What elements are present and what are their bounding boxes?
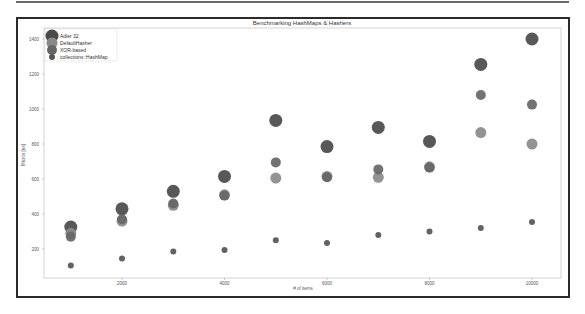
legend-label-adler32: Adler 32 (60, 33, 79, 39)
x-tick-label: 8000 (424, 281, 435, 286)
legend-label-hashmap: collections::HashMap (60, 54, 108, 60)
data-point (373, 164, 383, 174)
data-point (423, 135, 436, 148)
data-point (167, 185, 180, 198)
data-point (529, 219, 535, 225)
scatter-chart: Benchmarking HashMaps & Hashers 20040060… (0, 0, 585, 314)
data-point (475, 127, 486, 138)
legend-marker-xor-based (47, 45, 57, 55)
data-point (117, 214, 127, 224)
legend: Adler 32 DefaultHasher XOR-based collect… (45, 29, 117, 61)
data-point (427, 229, 433, 235)
y-axis-label: Micros [ns] (21, 144, 26, 166)
data-point (375, 232, 381, 238)
data-point (474, 58, 487, 71)
chart-title: Benchmarking HashMaps & Hashers (253, 20, 351, 26)
y-tick-label: 800 (31, 142, 39, 147)
y-tick-label: 600 (31, 177, 39, 182)
data-point (476, 90, 486, 100)
data-point (119, 256, 125, 262)
data-point (220, 191, 230, 201)
data-point (116, 202, 129, 215)
data-point (324, 240, 330, 246)
data-point (168, 199, 178, 209)
data-point (527, 100, 537, 110)
data-point (222, 247, 228, 253)
legend-label-defaulthasher: DefaultHasher (60, 40, 92, 46)
x-axis: 200040006000800010000 (117, 278, 539, 286)
data-point (372, 121, 385, 134)
y-tick-label: 1200 (29, 72, 40, 77)
legend-label-xor-based: XOR-based (60, 47, 86, 53)
data-point (270, 173, 281, 184)
data-point (68, 263, 74, 269)
x-tick-label: 2000 (117, 281, 128, 286)
data-point (273, 237, 279, 243)
data-point (271, 157, 281, 167)
data-point (425, 163, 435, 173)
x-tick-label: 4000 (219, 281, 230, 286)
y-tick-label: 1000 (29, 107, 40, 112)
y-axis: 200400600800100012001400 (29, 37, 44, 252)
data-point (66, 232, 76, 242)
data-point (170, 249, 176, 255)
data-point (478, 225, 484, 231)
legend-marker-hashmap (49, 54, 55, 60)
y-tick-label: 400 (31, 212, 39, 217)
data-point (218, 170, 231, 183)
data-point (322, 172, 332, 182)
data-point (526, 33, 539, 46)
data-point (269, 114, 282, 127)
y-tick-label: 200 (31, 247, 39, 252)
x-tick-label: 10000 (526, 281, 539, 286)
x-tick-label: 6000 (322, 281, 333, 286)
data-point (321, 140, 334, 153)
y-tick-label: 1400 (29, 37, 40, 42)
x-axis-label: # of items (293, 286, 313, 291)
data-point (527, 139, 538, 150)
